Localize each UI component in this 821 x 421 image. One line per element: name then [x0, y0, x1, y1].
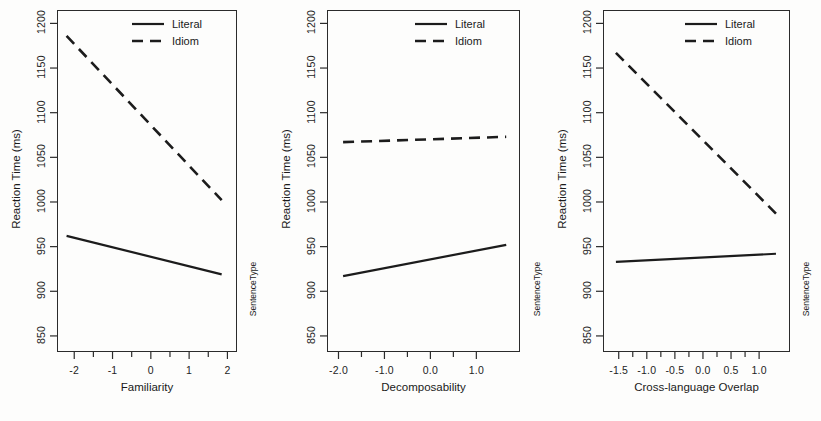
- y-tick-label: 1050: [35, 136, 47, 176]
- plot-area-1: [57, 10, 237, 352]
- y-tick-label: 900: [581, 270, 593, 310]
- legend-1: LiteralIdiom: [129, 15, 204, 49]
- y-tick-label: 950: [581, 226, 593, 266]
- y-axis-title-2: Reaction Time (ms): [280, 99, 292, 259]
- legend-label: Literal: [725, 18, 755, 30]
- legend-label: Literal: [172, 18, 202, 30]
- y-tick-label: 1200: [35, 2, 47, 42]
- dashed-line-icon: [684, 35, 718, 47]
- solid-line-icon: [684, 18, 718, 30]
- y-tick-label: 1000: [581, 181, 593, 221]
- y-tick-label: 1150: [581, 47, 593, 87]
- y-tick-label: 900: [35, 270, 47, 310]
- y-tick-label: 1150: [35, 47, 47, 87]
- x-axis-title-3: Cross-language Overlap: [634, 381, 759, 393]
- y-axis-title-1: Reaction Time (ms): [10, 99, 22, 259]
- y-tick-label: 950: [305, 226, 317, 266]
- y-tick-label: 1150: [305, 47, 317, 87]
- x-tick-label: -2: [69, 364, 79, 376]
- interaction-plot-figure: 85090095010001050110011501200-2-1012Lite…: [0, 0, 821, 421]
- plot-area-2: [327, 10, 520, 352]
- legend-label: Idiom: [455, 35, 482, 47]
- legend-item-idiom[interactable]: Idiom: [684, 34, 755, 47]
- y-tick-label: 1200: [305, 2, 317, 42]
- legend-item-literal[interactable]: Literal: [414, 17, 485, 30]
- y-tick-label: 1100: [581, 92, 593, 132]
- dashed-line-icon: [131, 35, 165, 47]
- strip-label-3: SentenceType: [801, 244, 811, 334]
- x-tick-label: -1: [108, 364, 118, 376]
- x-tick-label: -1.0: [637, 364, 656, 376]
- y-tick-label: 1000: [305, 181, 317, 221]
- x-tick-label: -1.5: [609, 364, 628, 376]
- y-tick-label: 850: [305, 315, 317, 355]
- x-tick-label: 0.5: [723, 364, 738, 376]
- x-tick-label: 0.0: [423, 364, 438, 376]
- x-tick-label: 1: [186, 364, 192, 376]
- x-axis-title-2: Decomposability: [381, 381, 465, 393]
- x-tick-label: -2.0: [329, 364, 348, 376]
- x-tick-label: 1.0: [752, 364, 767, 376]
- x-tick-label: -1.0: [375, 364, 394, 376]
- legend-item-idiom[interactable]: Idiom: [414, 34, 485, 47]
- legend-label: Idiom: [172, 35, 199, 47]
- legend-3: LiteralIdiom: [682, 15, 757, 49]
- plot-area-3: [603, 10, 790, 352]
- solid-line-icon: [131, 18, 165, 30]
- y-tick-label: 1000: [35, 181, 47, 221]
- legend-label: Idiom: [725, 35, 752, 47]
- x-tick-label: 0: [148, 364, 154, 376]
- y-tick-label: 850: [581, 315, 593, 355]
- x-tick-label: 2: [224, 364, 230, 376]
- x-axis-title-1: Familiarity: [121, 381, 173, 393]
- x-tick-label: -0.5: [665, 364, 684, 376]
- y-tick-label: 1050: [581, 136, 593, 176]
- x-tick-label: 0.0: [695, 364, 710, 376]
- x-tick-label: 1.0: [469, 364, 484, 376]
- y-tick-label: 950: [35, 226, 47, 266]
- y-axis-title-3: Reaction Time (ms): [556, 99, 568, 259]
- y-tick-label: 1050: [305, 136, 317, 176]
- legend-item-literal[interactable]: Literal: [131, 17, 202, 30]
- solid-line-icon: [414, 18, 448, 30]
- strip-label-2: SentenceType: [532, 244, 542, 334]
- legend-item-literal[interactable]: Literal: [684, 17, 755, 30]
- y-tick-label: 850: [35, 315, 47, 355]
- legend-2: LiteralIdiom: [412, 15, 487, 49]
- y-tick-label: 1100: [35, 92, 47, 132]
- y-tick-label: 1100: [305, 92, 317, 132]
- dashed-line-icon: [414, 35, 448, 47]
- legend-item-idiom[interactable]: Idiom: [131, 34, 202, 47]
- y-tick-label: 900: [305, 270, 317, 310]
- legend-label: Literal: [455, 18, 485, 30]
- strip-label-1: SentenceType: [248, 244, 258, 334]
- y-tick-label: 1200: [581, 2, 593, 42]
